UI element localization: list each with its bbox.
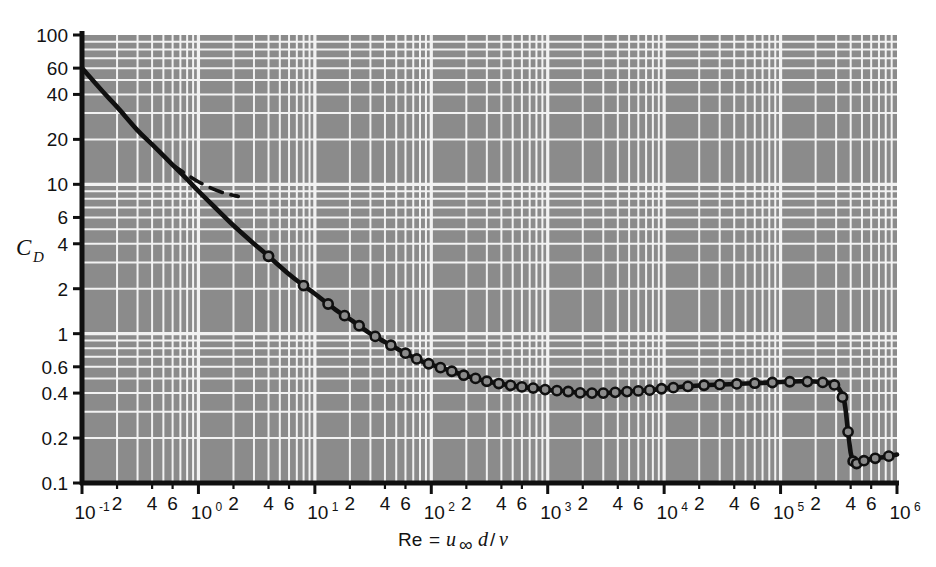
x-axis-title-u: u [446,528,456,550]
x-tick-decade-base: 10 [424,502,445,523]
drag-coefficient-chart: 10-1100101102103104105106246246246246246… [0,0,936,567]
data-point-marker [471,374,480,383]
x-tick-decade-exponent: 6 [914,500,921,514]
x-tick-decade-base: 10 [74,502,95,523]
data-point-marker [517,382,526,391]
data-point-marker [634,386,643,395]
x-tick-decade-exponent: 0 [215,500,222,514]
data-point-marker [683,382,692,391]
x-axis-title-re: Re [398,529,422,550]
data-point-marker [529,383,538,392]
data-point-marker [715,380,724,389]
x-tick-label-minor: 2 [461,493,472,514]
data-point-marker [436,363,445,372]
y-tick-label: 1 [57,324,68,345]
x-tick-label-minor: 6 [167,493,178,514]
x-tick-decade-exponent: 1 [332,500,339,514]
y-tick-label: 0.4 [42,383,69,404]
data-point-marker [447,367,456,376]
data-point-marker [750,379,759,388]
data-point-marker [871,454,880,463]
data-point-marker [599,388,608,397]
y-axis-title-main: C [16,235,32,260]
x-tick-decade-exponent: 5 [798,500,805,514]
y-tick-label: 6 [57,207,68,228]
x-tick-label-minor: 6 [517,493,528,514]
x-tick-decade-base: 10 [657,502,678,523]
data-point-marker [564,387,573,396]
data-point-marker [587,388,596,397]
data-point-marker [622,387,631,396]
x-axis-title-slash: / [490,529,496,550]
data-point-marker [768,378,777,387]
data-point-marker [264,252,273,261]
x-tick-label-minor: 6 [633,493,644,514]
data-point-marker [803,377,812,386]
data-point-marker [645,386,654,395]
x-tick-decade-exponent: 4 [681,500,688,514]
data-point-marker [838,393,847,402]
data-point-marker [386,341,395,350]
x-tick-decade-base: 10 [889,502,910,523]
data-point-marker [459,371,468,380]
y-tick-label: 0.2 [42,428,68,449]
data-point-marker [785,377,794,386]
data-point-marker [355,321,364,330]
x-tick-label-minor: 2 [345,493,356,514]
x-tick-label-minor: 4 [147,493,158,514]
x-tick-label-minor: 2 [694,493,705,514]
x-tick-label-minor: 4 [845,493,856,514]
data-point-marker [424,359,433,368]
data-point-marker [669,383,678,392]
y-tick-label: 20 [47,129,68,150]
x-axis-title-nu: ν [499,528,508,550]
x-tick-label-minor: 2 [112,493,123,514]
x-tick-decade-base: 10 [540,502,561,523]
data-point-marker [401,349,410,358]
data-point-marker [340,311,349,320]
x-tick-label-minor: 6 [866,493,877,514]
x-tick-label-minor: 2 [228,493,239,514]
x-tick-label-minor: 2 [810,493,821,514]
data-point-marker [552,386,561,395]
x-tick-decade-base: 10 [307,502,328,523]
data-point-marker [830,380,839,389]
y-tick-label: 2 [57,279,68,300]
data-point-marker [371,332,380,341]
y-tick-label: 10 [47,174,68,195]
y-tick-label: 100 [36,25,68,46]
x-tick-label-minor: 4 [380,493,391,514]
x-tick-label-minor: 4 [496,493,507,514]
data-point-marker [576,388,585,397]
x-axis-title-equals: = [429,529,440,550]
x-axis-title-d: d [478,528,489,550]
x-tick-label-minor: 4 [729,493,740,514]
figure-container: 10-1100101102103104105106246246246246246… [0,0,936,567]
data-point-marker [843,427,852,436]
data-point-marker [412,354,421,363]
x-tick-decade-exponent: 2 [448,500,455,514]
x-tick-label-minor: 4 [263,493,274,514]
x-tick-decade-base: 10 [191,502,212,523]
x-tick-label-minor: 6 [749,493,760,514]
y-tick-label: 0.1 [42,473,68,494]
data-point-marker [541,385,550,394]
data-point-marker [299,281,308,290]
data-point-marker [699,381,708,390]
data-point-marker [859,456,868,465]
data-point-marker [324,299,333,308]
x-axis-title-infinity-subscript: ∞ [459,534,473,555]
data-point-marker [482,377,491,386]
data-point-marker [506,381,515,390]
x-tick-decade-exponent: -1 [99,500,110,514]
x-tick-decade-exponent: 3 [565,500,572,514]
data-point-marker [494,379,503,388]
data-point-marker [657,384,666,393]
data-point-marker [732,379,741,388]
data-point-marker [884,452,893,461]
y-tick-label: 60 [47,58,68,79]
x-tick-label-minor: 6 [284,493,295,514]
y-axis-title-subscript: D [32,249,44,265]
x-tick-label-minor: 2 [577,493,588,514]
data-point-marker [818,378,827,387]
